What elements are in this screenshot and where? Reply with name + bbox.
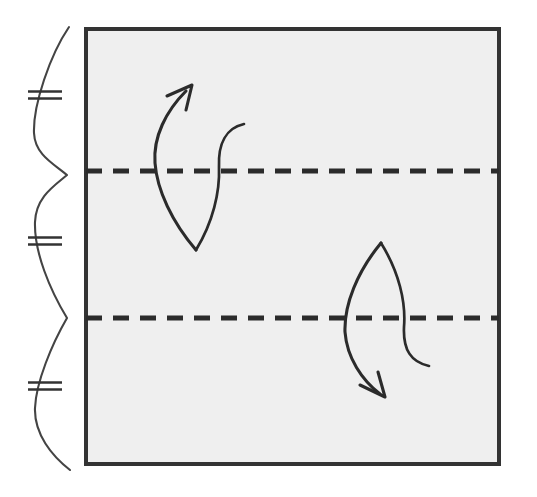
tick-mark-bottom: [28, 383, 62, 390]
tick-mark-middle: [28, 238, 62, 245]
origami-diagram-root: [0, 0, 537, 497]
tick-marks-group: [28, 92, 62, 390]
brace-curve-path: [34, 27, 70, 470]
equal-thirds-brace-group: [34, 27, 70, 470]
paper-sheet-fill: [86, 29, 499, 464]
origami-diagram-canvas: [0, 0, 537, 497]
tick-mark-top: [28, 92, 62, 99]
paper-sheet-group: [86, 29, 499, 464]
